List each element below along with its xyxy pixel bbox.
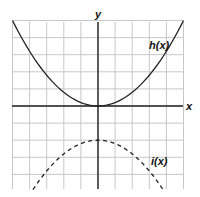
y-axis-label: y: [94, 8, 102, 20]
x-axis-label: x: [185, 100, 193, 112]
graph: x y h(x) i(x): [0, 0, 200, 197]
h-curve-label: h(x): [149, 39, 170, 51]
i-curve-label: i(x): [151, 155, 168, 167]
